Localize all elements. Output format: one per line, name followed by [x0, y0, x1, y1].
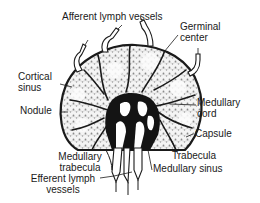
label-capsule: Capsule	[195, 129, 232, 140]
label-cortical-line1: Cortical	[18, 72, 52, 83]
label-germinal-line2: center	[180, 33, 221, 44]
label-medtrab-line1: Medullary	[56, 152, 104, 163]
lymph-node-diagram: Afferent lymph vessels Germinal center C…	[0, 0, 260, 203]
label-afferent-lymph-vessels: Afferent lymph vessels	[62, 12, 162, 23]
label-efferent-lymph-vessels: Efferent lymph vessels	[27, 174, 99, 195]
label-medcord-line1: Medullary	[197, 98, 240, 109]
label-trabecula: Trabecula	[172, 151, 216, 162]
label-medullary-sinus: Medullary sinus	[153, 164, 222, 175]
label-medullary-cord: Medullary cord	[197, 98, 240, 119]
label-germinal-center: Germinal center	[180, 22, 221, 43]
label-efferent-line1: Efferent lymph	[27, 174, 99, 185]
label-medcord-line2: cord	[197, 109, 240, 120]
label-medullary-trabecula: Medullary trabecula	[56, 152, 104, 173]
label-cortical-line2: sinus	[18, 83, 52, 94]
node-body	[61, 45, 202, 150]
label-cortical-sinus: Cortical sinus	[18, 72, 52, 93]
efferent-vessels	[112, 148, 142, 182]
label-efferent-line2: vessels	[27, 185, 99, 196]
efferent-vessel-tips	[116, 180, 138, 195]
label-nodule: Nodule	[20, 106, 52, 117]
label-germinal-line1: Germinal	[180, 22, 221, 33]
label-medtrab-line2: trabecula	[56, 163, 104, 174]
